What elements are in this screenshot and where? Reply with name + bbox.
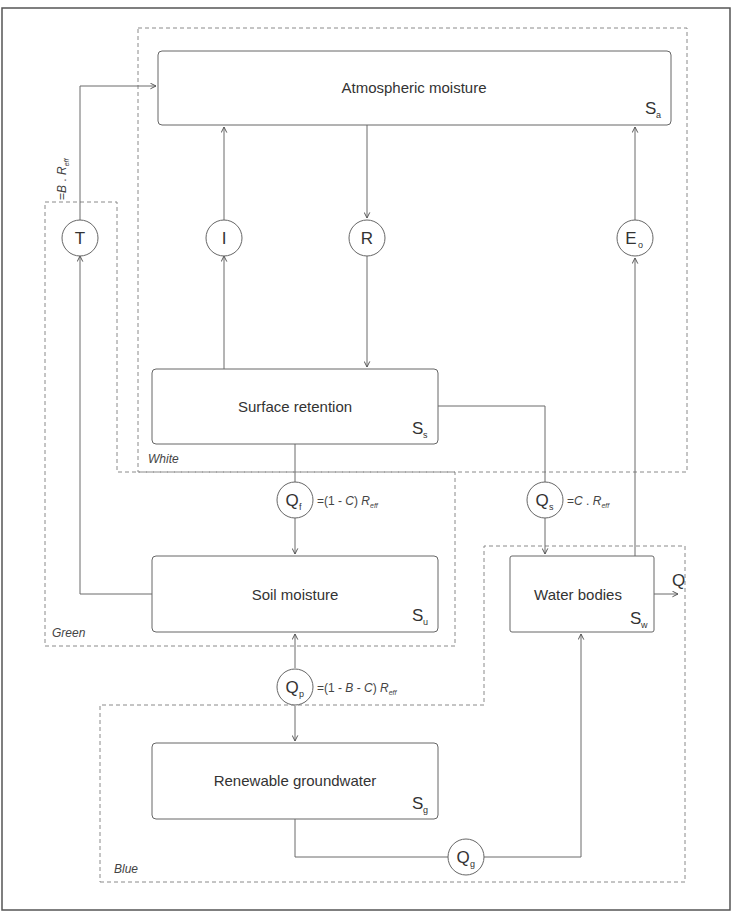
svg-text:S: S [645,99,656,118]
flow-t-to-atmosphere [80,86,156,220]
soil-moisture-label: Soil moisture [252,586,339,603]
white-region-label: White [148,452,179,466]
svg-text:S: S [412,419,423,438]
renewable-groundwater-label: Renewable groundwater [214,772,377,789]
svg-text:g: g [470,859,475,869]
outflow-q-label: Q [672,571,685,590]
water-bodies-label: Water bodies [534,586,622,603]
flux-t-label: T [75,229,85,248]
svg-text:s: s [423,430,428,440]
svg-text:Q: Q [456,848,469,867]
flow-qg-to-water [484,634,581,857]
water-cycle-diagram: Atmospheric moisture Surface retention S… [0,0,731,916]
flux-r-label: R [361,229,373,248]
blue-region-label: Blue [114,862,138,876]
flow-groundwater-to-qg [295,819,448,857]
flow-surface-to-qs [438,406,545,482]
svg-text:g: g [423,805,428,815]
svg-text:S: S [412,794,423,813]
atmospheric-moisture-label: Atmospheric moisture [341,79,486,96]
green-region-label: Green [52,626,86,640]
svg-text:w: w [640,620,648,630]
svg-text:p: p [299,689,304,699]
svg-text:o: o [638,240,643,250]
surface-retention-label: Surface retention [238,398,352,415]
svg-text:S: S [412,606,423,625]
flux-i-label: I [222,229,227,248]
flow-soil-to-t [80,256,152,594]
svg-text:Q: Q [535,491,548,510]
svg-text:a: a [656,110,661,120]
equation-qp: =(1 - B - C) Reff [317,681,398,696]
svg-text:u: u [423,617,428,627]
svg-text:S: S [630,609,641,628]
svg-text:Q: Q [285,491,298,510]
svg-text:E: E [625,229,636,248]
svg-text:Q: Q [285,678,298,697]
equation-t: =B . Reff [55,157,70,200]
equation-qs: =C . Reff [567,494,610,509]
equation-qf: =(1 - C) Reff [317,494,379,509]
svg-text:s: s [549,502,554,512]
